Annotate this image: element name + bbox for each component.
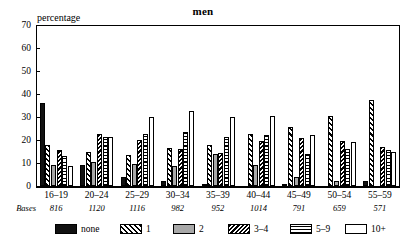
bar: [340, 141, 345, 186]
bar-groups: [36, 25, 400, 186]
bar: [143, 134, 148, 186]
y-tick-label: 40: [0, 94, 36, 104]
legend-item[interactable]: 5–9: [290, 224, 330, 234]
x-axis-labels: 16–1920–2425–2930–3435–3940–4445–4950–54…: [36, 190, 400, 204]
bar: [132, 164, 137, 186]
bar: [149, 117, 154, 186]
bar: [80, 165, 85, 186]
x-tick-label: 40–44: [238, 190, 278, 200]
base-value: 1116: [117, 203, 157, 213]
bar: [264, 135, 269, 186]
bar: [386, 150, 391, 186]
y-tick-label: 0: [0, 186, 36, 196]
bar-group: [80, 25, 113, 186]
base-value: 659: [319, 203, 359, 213]
bar: [183, 132, 188, 186]
legend-item[interactable]: none: [55, 224, 99, 234]
y-tick-label: 50: [0, 71, 36, 81]
bar: [189, 111, 194, 186]
bar: [345, 149, 350, 186]
bar: [253, 165, 258, 186]
bar: [172, 166, 177, 186]
x-tick-label: 55–59: [360, 190, 400, 200]
legend-label: 10+: [371, 224, 386, 234]
bar: [68, 166, 73, 186]
x-tick-label: 16–19: [36, 190, 76, 200]
y-tick-label: 70: [0, 25, 36, 35]
legend-swatch: [290, 224, 312, 234]
bases-values: 816112011169829521014791659571: [36, 203, 400, 215]
bar: [202, 184, 207, 186]
bases-label: Bases: [0, 203, 36, 213]
bar: [328, 116, 333, 186]
bar: [207, 145, 212, 186]
legend-label: 1: [146, 224, 151, 234]
bar: [270, 116, 275, 186]
bar: [161, 181, 166, 186]
base-value: 791: [279, 203, 319, 213]
bar-group: [202, 25, 235, 186]
legend-swatch: [173, 224, 195, 234]
bar: [294, 177, 299, 186]
legend-label: none: [81, 224, 99, 234]
bar: [259, 141, 264, 186]
bar: [391, 152, 396, 187]
bar-group: [242, 25, 275, 186]
bar: [178, 149, 183, 186]
bar: [97, 134, 102, 186]
legend-label: 3–4: [254, 224, 268, 234]
bar-group: [363, 25, 396, 186]
x-tick-label: 20–24: [76, 190, 116, 200]
bar-group: [40, 25, 73, 186]
bar: [167, 148, 172, 186]
base-value: 571: [360, 203, 400, 213]
x-axis-line: [36, 186, 400, 188]
legend-label: 5–9: [316, 224, 330, 234]
bar: [288, 127, 293, 186]
y-tick-label: 30: [0, 117, 36, 127]
bar: [248, 134, 253, 186]
base-value: 952: [198, 203, 238, 213]
legend-item[interactable]: 10+: [345, 224, 386, 234]
y-tick-label: 60: [0, 48, 36, 58]
bar: [51, 165, 56, 186]
y-tick-label: 10: [0, 163, 36, 173]
legend-swatch: [120, 224, 142, 234]
legend-swatch: [345, 224, 367, 234]
bar: [299, 138, 304, 186]
x-tick-label: 25–29: [117, 190, 157, 200]
y-axis-label: percentage: [37, 12, 80, 23]
bar: [218, 153, 223, 186]
bar-group: [161, 25, 194, 186]
chart-legend: none123–45–910+: [0, 224, 406, 244]
legend-item[interactable]: 2: [173, 224, 204, 234]
base-value: 1014: [238, 203, 278, 213]
legend-item[interactable]: 3–4: [228, 224, 268, 234]
bar: [62, 156, 67, 186]
bar: [334, 181, 339, 186]
bar: [363, 181, 368, 186]
base-value: 982: [157, 203, 197, 213]
y-tick-label: 20: [0, 140, 36, 150]
bar: [121, 177, 126, 186]
bar-group: [323, 25, 356, 186]
bar: [45, 145, 50, 186]
x-tick-label: 45–49: [279, 190, 319, 200]
bar: [305, 154, 310, 186]
bar: [380, 147, 385, 186]
bar-group: [121, 25, 154, 186]
bar: [351, 142, 356, 186]
bar: [213, 154, 218, 186]
bar: [369, 100, 374, 186]
legend-label: 2: [199, 224, 204, 234]
bar: [103, 137, 108, 186]
x-tick-label: 30–34: [157, 190, 197, 200]
base-value: 1120: [76, 203, 116, 213]
legend-item[interactable]: 1: [120, 224, 151, 234]
bar: [126, 155, 131, 186]
base-value: 816: [36, 203, 76, 213]
legend-swatch: [228, 224, 250, 234]
bar: [108, 137, 113, 186]
x-tick-label: 35–39: [198, 190, 238, 200]
bar: [230, 117, 235, 186]
